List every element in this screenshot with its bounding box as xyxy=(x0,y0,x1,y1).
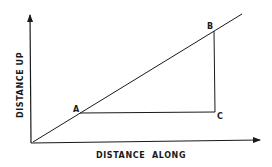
slope-line xyxy=(33,14,242,142)
point-c-label: C xyxy=(217,112,223,121)
point-a-label: A xyxy=(73,105,80,114)
x-axis-label: DISTANCE ALONG xyxy=(96,151,186,160)
rise-segment-bc xyxy=(214,31,215,112)
run-segment-ac xyxy=(80,112,215,113)
slope-diagram: A B C DISTANCE ALONG DISTANCE UP xyxy=(0,0,272,167)
y-axis xyxy=(30,15,31,143)
point-b-label: B xyxy=(207,22,213,31)
y-axis-label: DISTANCE UP xyxy=(16,52,25,118)
x-axis xyxy=(31,140,260,143)
